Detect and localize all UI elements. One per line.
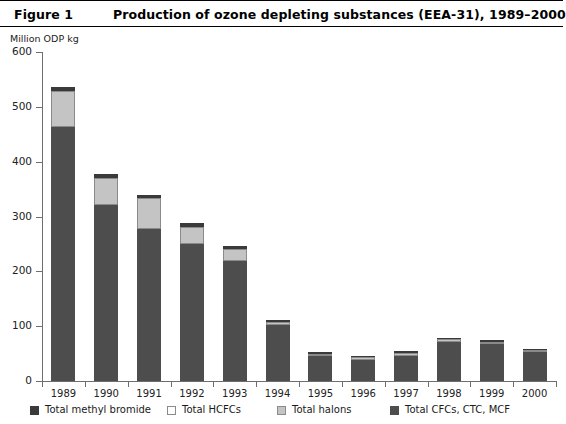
x-axis-tick — [428, 382, 429, 387]
bar-stack[interactable] — [308, 352, 332, 381]
bar-segment[interactable] — [308, 356, 332, 381]
x-axis-tick — [385, 382, 386, 387]
y-axis-tick — [36, 326, 42, 327]
y-axis-tick-label: 100 — [0, 320, 32, 331]
y-axis-tick-label: 400 — [0, 156, 32, 167]
bar-segment[interactable] — [94, 178, 118, 205]
legend-item[interactable]: Total methyl bromide — [30, 402, 151, 418]
x-axis-tick — [128, 382, 129, 387]
bar-segment[interactable] — [137, 229, 161, 381]
bar-segment[interactable] — [223, 249, 247, 261]
bar-segment[interactable] — [394, 353, 418, 356]
bar-segment[interactable] — [351, 356, 375, 357]
bar-segment[interactable] — [480, 344, 504, 381]
bar-segment[interactable] — [94, 174, 118, 178]
bar-segment[interactable] — [137, 198, 161, 229]
x-axis-tick-label: 1994 — [256, 389, 299, 399]
x-axis-tick-label: 2000 — [513, 389, 556, 399]
bar-segment[interactable] — [266, 325, 290, 381]
x-axis-tick — [299, 382, 300, 387]
y-axis-tick-label: 0 — [0, 375, 32, 386]
y-axis-tick — [36, 162, 42, 163]
bar-segment[interactable] — [308, 352, 332, 354]
x-axis-tick-label: 1993 — [213, 389, 256, 399]
x-axis-tick — [513, 382, 514, 387]
bar-segment[interactable] — [437, 338, 461, 340]
x-axis-tick — [556, 382, 557, 387]
y-axis-line — [42, 52, 43, 382]
bar-stack[interactable] — [137, 195, 161, 381]
bar-segment[interactable] — [51, 87, 75, 91]
y-axis-tick — [36, 107, 42, 108]
bar-segment[interactable] — [437, 339, 461, 341]
x-axis-tick — [171, 382, 172, 387]
bar-stack[interactable] — [180, 223, 204, 381]
legend-label: Total HCFCs — [182, 405, 241, 415]
bar-stack[interactable] — [437, 338, 461, 381]
legend-swatch-icon — [277, 406, 286, 415]
bar-stack[interactable] — [266, 320, 290, 381]
legend-item[interactable]: Total halons — [277, 402, 351, 418]
bar-segment[interactable] — [523, 352, 547, 381]
x-axis-tick — [470, 382, 471, 387]
bar-segment[interactable] — [394, 351, 418, 353]
legend-label: Total methyl bromide — [45, 405, 151, 415]
bar-segment[interactable] — [180, 223, 204, 227]
legend-swatch-icon — [30, 406, 39, 415]
bar-segment[interactable] — [351, 357, 375, 360]
y-axis-tick-label: 300 — [0, 211, 32, 222]
x-axis-tick-label: 1989 — [42, 389, 85, 399]
legend-label: Total CFCs, CTC, MCF — [405, 405, 510, 415]
bar-segment[interactable] — [94, 205, 118, 381]
x-axis-tick-label: 1999 — [470, 389, 513, 399]
bar-segment[interactable] — [523, 350, 547, 352]
x-axis-tick — [342, 382, 343, 387]
bar-segment[interactable] — [180, 244, 204, 381]
bar-stack[interactable] — [51, 87, 75, 381]
bar-stack[interactable] — [523, 349, 547, 381]
x-axis-tick-label: 1997 — [385, 389, 428, 399]
x-axis-tick-label: 1998 — [428, 389, 471, 399]
x-axis-tick-label: 1991 — [128, 389, 171, 399]
x-axis-tick-label: 1990 — [85, 389, 128, 399]
bar-segment[interactable] — [394, 356, 418, 381]
y-axis-tick-label: 600 — [0, 46, 32, 57]
x-axis-tick-label: 1992 — [171, 389, 214, 399]
bar-segment[interactable] — [351, 360, 375, 381]
bar-segment[interactable] — [523, 349, 547, 351]
bar-segment[interactable] — [137, 195, 161, 199]
bar-segment[interactable] — [180, 227, 204, 244]
legend-swatch-icon — [167, 406, 176, 415]
bar-stack[interactable] — [351, 356, 375, 381]
bar-stack[interactable] — [94, 174, 118, 381]
y-axis-tick-label: 200 — [0, 265, 32, 276]
legend-item[interactable]: Total CFCs, CTC, MCF — [390, 402, 510, 418]
bar-segment[interactable] — [437, 342, 461, 381]
bar-stack[interactable] — [223, 246, 247, 381]
bar-segment[interactable] — [480, 340, 504, 342]
bar-segment[interactable] — [223, 246, 247, 249]
y-axis-tick — [36, 271, 42, 272]
bar-segment[interactable] — [51, 127, 75, 381]
y-axis-tick — [36, 52, 42, 53]
x-axis-tick — [85, 382, 86, 387]
legend-label: Total halons — [292, 405, 351, 415]
x-axis-tick — [42, 382, 43, 387]
bar-segment[interactable] — [480, 342, 504, 344]
chart-legend: Total methyl bromideTotal HCFCsTotal hal… — [0, 402, 563, 422]
bar-segment[interactable] — [266, 322, 290, 325]
bar-stack[interactable] — [394, 351, 418, 381]
x-axis-tick — [213, 382, 214, 387]
bar-segment[interactable] — [223, 261, 247, 381]
x-axis-tick-label: 1996 — [342, 389, 385, 399]
legend-item[interactable]: Total HCFCs — [167, 402, 241, 418]
legend-swatch-icon — [390, 406, 399, 415]
y-axis-tick — [36, 217, 42, 218]
bar-segment[interactable] — [308, 354, 332, 357]
y-axis-tick-label: 500 — [0, 101, 32, 112]
bar-segment[interactable] — [51, 91, 75, 127]
bar-segment[interactable] — [266, 320, 290, 322]
bar-stack[interactable] — [480, 340, 504, 381]
x-axis-tick-label: 1995 — [299, 389, 342, 399]
